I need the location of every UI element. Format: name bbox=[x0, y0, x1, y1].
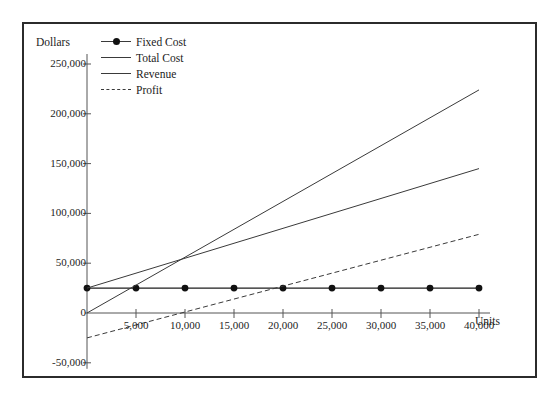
y-tick-label: 150,000 bbox=[24, 157, 86, 169]
series-marker bbox=[378, 285, 385, 292]
y-tick-label: 0 bbox=[24, 306, 86, 318]
plot-surface: Dollars Units Fixed Cost Total Cost Reve… bbox=[24, 24, 535, 376]
series-marker bbox=[329, 285, 336, 292]
y-tick-label: 200,000 bbox=[24, 107, 86, 119]
series-marker bbox=[133, 285, 140, 292]
series-marker bbox=[427, 285, 434, 292]
series-marker bbox=[182, 285, 189, 292]
y-tick-label: 100,000 bbox=[24, 206, 86, 218]
series-line-revenue bbox=[87, 90, 479, 313]
chart-frame: Dollars Units Fixed Cost Total Cost Reve… bbox=[22, 22, 537, 378]
y-tick-label: -50,000 bbox=[24, 356, 86, 368]
y-tick-label: 250,000 bbox=[24, 57, 86, 69]
y-tick-label: 50,000 bbox=[24, 256, 86, 268]
series-line-total-cost bbox=[87, 169, 479, 289]
series-marker bbox=[231, 285, 238, 292]
x-tick-label: 40,000 bbox=[449, 319, 509, 331]
series-marker bbox=[476, 285, 483, 292]
